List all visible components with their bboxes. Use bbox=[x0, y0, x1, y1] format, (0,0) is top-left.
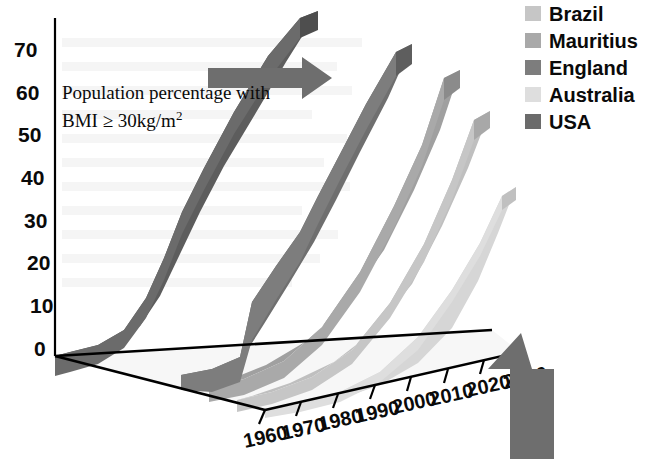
legend-label-mauritius: Mauritius bbox=[549, 30, 638, 52]
annotation-exponent: 2 bbox=[176, 108, 183, 123]
legend-swatch-england bbox=[525, 60, 541, 75]
legend-label-australia: Australia bbox=[549, 84, 635, 106]
svg-text:BMI ≥ 30kg/m2: BMI ≥ 30kg/m2 bbox=[62, 108, 182, 131]
legend-swatch-mauritius bbox=[525, 33, 541, 48]
y-tick-60: 60 bbox=[16, 81, 39, 104]
legend-swatch-usa bbox=[525, 114, 541, 129]
legend-swatch-australia bbox=[525, 87, 541, 102]
annotation-geq-symbol: ≥ bbox=[103, 110, 113, 131]
legend-label-brazil: Brazil bbox=[549, 3, 603, 25]
legend-label-england: England bbox=[549, 57, 628, 79]
y-tick-70: 70 bbox=[14, 38, 37, 61]
legend-label-usa: USA bbox=[549, 111, 591, 133]
annotation-bmi-value: 30kg/m bbox=[113, 110, 176, 131]
y-tick-10: 10 bbox=[30, 294, 53, 317]
y-tick-0: 0 bbox=[34, 337, 46, 360]
annotation-line-2: BMI ≥ 30kg/m2 bbox=[62, 108, 182, 131]
y-tick-40: 40 bbox=[21, 166, 44, 189]
y-tick-30: 30 bbox=[24, 209, 47, 232]
three-d-area-chart: 70 60 50 40 30 20 10 0 1960 1970 1980 19… bbox=[0, 0, 649, 459]
legend-swatch-brazil bbox=[525, 6, 541, 21]
y-tick-20: 20 bbox=[27, 251, 50, 274]
annotation-line-1: Population percentage with bbox=[62, 82, 270, 103]
chart-container: 70 60 50 40 30 20 10 0 1960 1970 1980 19… bbox=[0, 0, 649, 459]
y-tick-50: 50 bbox=[18, 123, 41, 146]
annotation-bmi-prefix: BMI bbox=[62, 110, 103, 131]
